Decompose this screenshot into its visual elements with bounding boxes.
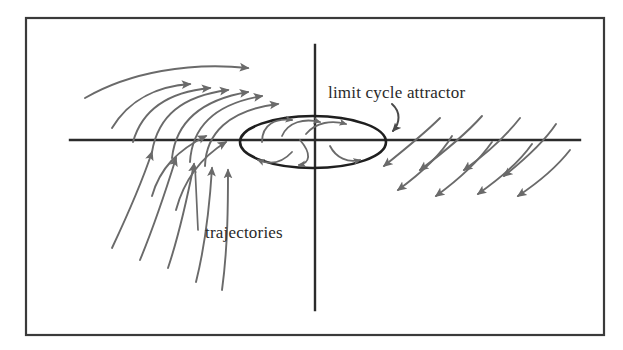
left-trajectories-group <box>85 66 278 290</box>
trajectory-curve <box>140 158 176 260</box>
trajectory-curve <box>299 140 308 165</box>
trajectory-curve <box>152 90 228 152</box>
trajectories-leader-line <box>195 166 198 230</box>
inner-trajectories-group <box>258 120 360 165</box>
axes-group <box>70 45 580 310</box>
trajectory-curve <box>258 152 292 163</box>
trajectory-curve <box>420 116 482 170</box>
phase-portrait-figure: limit cycle attractor trajectories <box>0 0 623 350</box>
trajectory-curve <box>112 152 152 248</box>
phase-portrait-canvas: limit cycle attractor trajectories <box>0 0 623 350</box>
trajectory-curve <box>168 164 194 268</box>
trajectory-curve <box>330 146 360 161</box>
limit-cycle-attractor-label: limit cycle attractor <box>328 83 465 102</box>
trajectories-label: trajectories <box>205 223 283 242</box>
label-leader-arrow-icon <box>392 104 399 131</box>
right-trajectories-group <box>384 116 570 196</box>
trajectory-curve <box>306 122 346 134</box>
trajectory-curve <box>384 118 440 166</box>
trajectory-curve <box>176 142 226 210</box>
trajectory-curve <box>85 66 248 98</box>
trajectory-curve <box>112 84 190 128</box>
trajectory-curve <box>398 136 452 190</box>
